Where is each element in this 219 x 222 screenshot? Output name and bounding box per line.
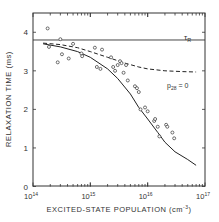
data-point	[114, 69, 117, 72]
data-point	[47, 45, 50, 48]
data-point	[125, 64, 128, 67]
annotation-tau-r: τR	[184, 33, 191, 43]
x-tick-labels: 1014101510161017	[24, 191, 210, 201]
data-point	[146, 110, 149, 113]
y-tick-label: 4	[24, 28, 29, 37]
annotation-p28-zero: p28 = 0	[167, 82, 188, 91]
data-point	[56, 61, 59, 64]
data-point	[120, 62, 123, 65]
y-tick-label: 1	[24, 144, 29, 153]
x-tick-label: 1014	[24, 191, 38, 201]
data-point	[112, 65, 115, 68]
data-point	[72, 42, 75, 45]
data-point	[139, 108, 142, 111]
data-point	[46, 27, 49, 30]
data-point	[122, 71, 125, 74]
y-tick-label: 2	[24, 105, 29, 114]
data-point	[110, 56, 113, 59]
x-tick-label: 1017	[196, 191, 210, 201]
x-axis-label: EXCITED-STATE POPULATION (cm-3)	[47, 204, 192, 214]
data-point	[116, 64, 119, 67]
data-point	[166, 125, 169, 128]
data-point	[173, 137, 176, 140]
data-point	[135, 87, 138, 90]
data-point	[171, 131, 174, 134]
data-point	[99, 67, 102, 70]
data-point	[137, 91, 140, 94]
data-point	[95, 65, 98, 68]
data-point	[154, 118, 157, 121]
data-series	[33, 27, 205, 165]
data-point	[126, 79, 129, 82]
y-tick-label: 0	[24, 183, 29, 192]
data-point	[101, 48, 104, 51]
data-point	[67, 57, 70, 60]
data-point	[59, 38, 62, 41]
y-axis-label: RELAXATION TIME (ms)	[4, 51, 13, 147]
y-tick-labels: 01234	[24, 28, 29, 191]
data-point	[60, 53, 63, 56]
data-point	[81, 55, 84, 58]
y-tick-label: 3	[24, 67, 29, 76]
p28-zero-curve	[43, 43, 196, 72]
data-point	[158, 135, 161, 138]
data-point	[93, 46, 96, 49]
data-point	[144, 106, 147, 109]
x-tick-label: 1015	[81, 191, 95, 201]
data-point	[156, 125, 159, 128]
relaxation-time-chart: 01234 1014101510161017 RELAXATION TIME (…	[0, 0, 219, 222]
x-tick-label: 1016	[139, 191, 153, 201]
